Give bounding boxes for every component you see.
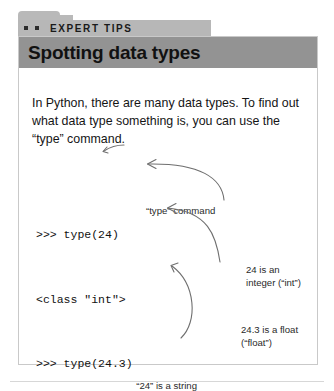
annotation-type-command: “type” command (146, 205, 215, 218)
card-body: In Python, there are many data types. To… (19, 68, 317, 364)
annotation-line: “type” command (146, 205, 215, 216)
square-dot-icon (24, 26, 28, 30)
code-line: >>> type(24) (36, 224, 140, 246)
annotation-line: 24 is an (246, 264, 324, 277)
card-title: Spotting data types (28, 42, 201, 64)
expert-tips-banner: EXPERT TIPS (18, 20, 211, 36)
bottom-divider (10, 381, 324, 382)
code-block: >>> type(24) <class "int"> >>> type(24.3… (36, 181, 140, 391)
code-line: <class "int"> (36, 289, 140, 311)
square-dot-icon (35, 26, 39, 30)
banner-label: EXPERT TIPS (50, 23, 133, 34)
code-line: >>> type(24.3) (36, 353, 140, 375)
annotation-line: integer (“int”) (246, 277, 324, 290)
tip-card: Spotting data types In Python, there are… (18, 36, 318, 365)
banner-dots-group (24, 26, 39, 30)
annotation-line: 24.3 is a float (241, 324, 321, 337)
card-title-bar: Spotting data types (19, 37, 317, 68)
intro-paragraph: In Python, there are many data types. To… (32, 94, 300, 148)
annotation-float: 24.3 is a float (“float”) (241, 324, 321, 349)
annotation-line: (“float”) (241, 337, 321, 350)
expert-tips-figure: EXPERT TIPS Spotting data types In Pytho… (0, 0, 334, 391)
annotation-int: 24 is an integer (“int”) (246, 264, 324, 289)
